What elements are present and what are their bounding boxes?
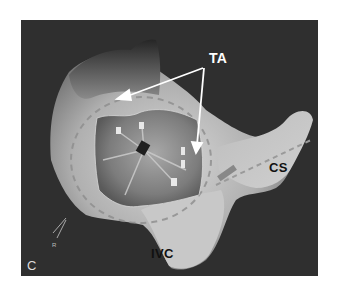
label-marker: R	[52, 242, 56, 248]
figure-panel: TA CS IVC R C	[21, 20, 318, 276]
panel-letter: C	[27, 258, 36, 273]
label-ivc: IVC	[151, 246, 174, 261]
label-ta: TA	[209, 50, 227, 66]
right-atrium-render	[21, 20, 318, 276]
label-cs: CS	[269, 160, 288, 175]
coronary-sinus	[216, 111, 313, 188]
